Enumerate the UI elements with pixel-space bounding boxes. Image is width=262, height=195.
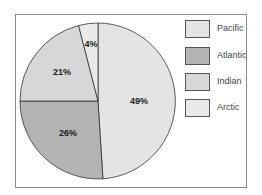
legend-swatch <box>185 99 210 117</box>
label-atlantic: 26% <box>59 128 77 138</box>
legend-swatch <box>185 20 210 38</box>
legend-swatch <box>185 47 210 65</box>
legend-item-indian: Indian <box>185 73 262 95</box>
legend-item-arctic: Arctic <box>185 99 262 121</box>
legend-label: Pacific <box>217 23 244 33</box>
legend-label: Arctic <box>217 102 240 112</box>
legend-label: Indian <box>217 76 242 86</box>
legend-item-pacific: Pacific <box>185 20 262 42</box>
label-pacific: 49% <box>130 96 148 106</box>
legend-item-atlantic: Atlantic <box>185 47 262 69</box>
label-indian: 21% <box>53 67 71 77</box>
slice-atlantic <box>20 101 103 179</box>
legend-label: Atlantic <box>217 50 247 60</box>
label-arctic: 4% <box>84 39 97 49</box>
legend-swatch <box>185 73 210 91</box>
